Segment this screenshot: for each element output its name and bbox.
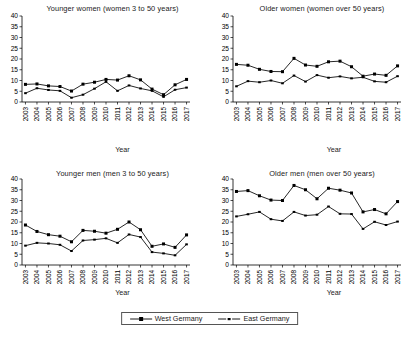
legend-item-west-germany[interactable]: West Germany [130,314,203,323]
svg-text:20: 20 [11,55,19,62]
svg-text:30: 30 [222,197,230,204]
legend-key-west-germany [130,315,152,323]
svg-text:5: 5 [14,251,18,258]
svg-text:2010: 2010 [102,270,109,285]
chart-title-older-women: Older women (women over 50 years) [209,4,419,13]
svg-text:2017: 2017 [183,107,190,122]
chart-title-younger-men: Younger men (men 3 to 50 years) [0,169,209,178]
svg-text:2003: 2003 [22,107,29,122]
svg-text:2010: 2010 [313,107,320,122]
svg-text:2017: 2017 [394,107,401,122]
svg-text:10: 10 [11,240,19,247]
svg-text:2011: 2011 [114,107,121,121]
svg-text:40: 40 [222,175,230,182]
svg-text:2013: 2013 [137,107,144,122]
svg-text:2016: 2016 [171,270,178,285]
svg-text:2011: 2011 [325,107,332,121]
svg-text:0: 0 [225,98,229,105]
chart-legend: West Germany East Germany [121,312,299,325]
svg-text:40: 40 [11,12,19,19]
figure-root: Younger women (women 3 to 50 years) 0510… [0,0,419,349]
svg-text:2003: 2003 [233,270,240,285]
svg-text:2013: 2013 [348,270,355,285]
svg-text:2012: 2012 [125,107,132,122]
svg-text:2005: 2005 [45,107,52,122]
chart-title-younger-women: Younger women (women 3 to 50 years) [0,4,209,13]
svg-text:25: 25 [11,45,19,52]
svg-text:2015: 2015 [160,270,167,285]
svg-text:2016: 2016 [382,107,389,122]
svg-text:2014: 2014 [148,270,155,285]
legend-label-east-germany: East Germany [243,314,289,323]
svg-text:5: 5 [225,88,229,95]
legend-key-east-germany [218,315,240,323]
svg-text:20: 20 [222,218,230,225]
svg-text:2005: 2005 [256,107,263,122]
svg-text:35: 35 [11,23,19,30]
legend-item-east-germany[interactable]: East Germany [218,314,289,323]
plot-svg-younger-women: 0510152025303540200320042005200620072008… [22,16,198,144]
svg-text:2006: 2006 [267,107,274,122]
svg-text:35: 35 [222,23,230,30]
svg-text:0: 0 [14,98,18,105]
svg-text:0: 0 [14,261,18,268]
svg-text:2009: 2009 [91,270,98,285]
svg-text:2010: 2010 [102,107,109,122]
svg-text:2014: 2014 [359,107,366,122]
svg-text:2016: 2016 [171,107,178,122]
svg-text:2009: 2009 [91,107,98,122]
svg-text:5: 5 [14,88,18,95]
xaxis-title-older-women: Year [209,145,419,154]
svg-text:2004: 2004 [33,107,40,122]
svg-text:2004: 2004 [244,270,251,285]
xaxis-title-younger-women: Year [0,145,227,154]
svg-text:2011: 2011 [325,270,332,284]
svg-text:40: 40 [222,12,230,19]
plot-svg-older-women: 0510152025303540200320042005200620072008… [233,16,409,144]
svg-text:2004: 2004 [244,107,251,122]
svg-text:2011: 2011 [114,270,121,284]
svg-text:2009: 2009 [302,107,309,122]
xaxis-title-older-men: Year [209,288,419,297]
chart-grid: Younger women (women 3 to 50 years) 0510… [0,0,419,306]
plot-area-older-women: 0510152025303540200320042005200620072008… [233,16,409,144]
svg-text:2017: 2017 [394,270,401,285]
svg-text:2008: 2008 [290,270,297,285]
svg-text:25: 25 [222,45,230,52]
svg-text:2007: 2007 [279,107,286,122]
svg-text:30: 30 [11,197,19,204]
svg-text:2013: 2013 [348,107,355,122]
chart-title-older-men: Older men (men over 50 years) [209,169,419,178]
svg-text:2012: 2012 [125,270,132,285]
svg-text:2012: 2012 [336,270,343,285]
svg-text:40: 40 [11,175,19,182]
svg-text:35: 35 [11,186,19,193]
svg-text:2014: 2014 [148,107,155,122]
svg-text:25: 25 [222,208,230,215]
svg-text:2015: 2015 [371,107,378,122]
svg-text:10: 10 [11,77,19,84]
svg-text:2007: 2007 [68,107,75,122]
svg-text:10: 10 [222,77,230,84]
svg-text:35: 35 [222,186,230,193]
svg-text:2009: 2009 [302,270,309,285]
svg-text:15: 15 [222,229,230,236]
svg-text:2008: 2008 [79,107,86,122]
svg-text:25: 25 [11,208,19,215]
svg-text:30: 30 [222,34,230,41]
chart-panel-older-men: Older men (men over 50 years) 0510152025… [209,165,419,306]
svg-text:2006: 2006 [56,107,63,122]
svg-text:2012: 2012 [336,107,343,122]
chart-panel-younger-women: Younger women (women 3 to 50 years) 0510… [0,0,209,165]
svg-text:15: 15 [11,229,19,236]
svg-text:2008: 2008 [79,270,86,285]
svg-text:2014: 2014 [359,270,366,285]
plot-area-younger-women: 0510152025303540200320042005200620072008… [22,16,198,144]
svg-text:2015: 2015 [160,107,167,122]
svg-text:2015: 2015 [371,270,378,285]
svg-text:2005: 2005 [45,270,52,285]
svg-text:15: 15 [222,66,230,73]
svg-text:20: 20 [222,55,230,62]
svg-text:2003: 2003 [22,270,29,285]
svg-text:30: 30 [11,34,19,41]
